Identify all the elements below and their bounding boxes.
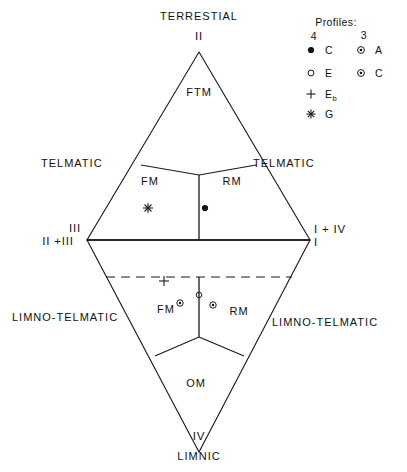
zone-label-limnic: LIMNIC	[177, 450, 220, 462]
legend-label-eb-subscript: b	[333, 94, 338, 103]
legend-label-c-col3: C	[375, 67, 383, 79]
zone-label-telmatic-left: TELMATIC	[41, 157, 103, 169]
legend-symbol-plus	[307, 90, 316, 99]
zone-label-limno-telmatic-left: LIMNO-TELMATIC	[12, 311, 118, 323]
vertex-label-right-lower: I	[314, 236, 318, 248]
legend-label-e-col4: E	[325, 67, 333, 79]
zone-label-terrestial: TERRESTIAL	[160, 10, 238, 22]
zone-label-telmatic-right: TELMATIC	[253, 157, 315, 169]
region-label-om: OM	[186, 377, 206, 389]
lower-y-right-branch	[199, 337, 244, 356]
legend-column-header-4: 4	[311, 30, 317, 42]
legend-label-eb-col4: Eb	[325, 88, 337, 103]
region-label-rm-lower: RM	[229, 305, 248, 317]
legend-symbol-asterisk	[307, 110, 316, 119]
region-label-fm-upper: FM	[141, 175, 159, 187]
region-label-rm-upper: RM	[222, 175, 241, 187]
point-filled-circle-rm-upper	[202, 205, 208, 211]
point-asterisk-fm-upper	[143, 203, 153, 213]
upper-y-left-branch	[141, 165, 199, 175]
figure-canvas: TERRESTIAL LIMNIC TELMATIC TELMATIC LIMN…	[0, 0, 407, 472]
vertex-label-bottom: IV	[193, 430, 205, 442]
region-label-ftm: FTM	[186, 86, 212, 98]
vertex-label-left-upper: III	[69, 222, 81, 234]
point-circled-dot-fm-lower-a	[177, 300, 183, 306]
point-circled-dot-fm-lower-b	[210, 302, 216, 308]
legend-label-eb-base: E	[325, 88, 333, 100]
legend-symbol-circled-dot-c	[358, 70, 365, 77]
zone-label-limno-telmatic-right: LIMNO-TELMATIC	[272, 316, 378, 328]
region-label-fm-lower: FM	[157, 303, 175, 315]
legend-label-c-col4: C	[325, 44, 333, 56]
legend-symbol-filled-circle	[308, 47, 314, 53]
legend-symbol-open-circle	[308, 70, 314, 76]
vertex-label-right-upper: I + IV	[314, 223, 346, 235]
lower-y-left-branch	[155, 337, 199, 356]
vertex-label-left-lower: II +III	[42, 235, 74, 247]
legend-label-g-col4: G	[325, 108, 334, 120]
vertex-label-top: II	[195, 30, 203, 42]
legend-label-a-col3: A	[375, 44, 383, 56]
lower-triangle-outline	[87, 240, 310, 452]
legend-symbol-circled-dot-a	[358, 47, 365, 54]
legend-title: Profiles:	[315, 16, 357, 28]
upper-y-right-branch	[199, 165, 256, 175]
legend-column-header-3: 3	[361, 29, 367, 41]
